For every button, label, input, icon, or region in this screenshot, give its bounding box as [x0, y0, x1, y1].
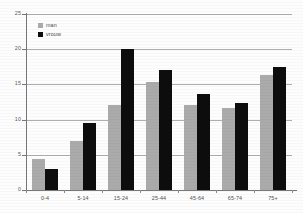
legend-item-man: man: [38, 21, 61, 30]
bar-chart: 0510152025 0-45-1415-2425-4445-6465-7475…: [0, 0, 303, 213]
bar-group-65-74: [222, 14, 248, 190]
x-tick-label-15-24: 15-24: [101, 196, 141, 201]
bar-vrouw-65-74: [235, 103, 248, 190]
x-tick-mark-0-4: [26, 190, 27, 193]
bar-group-25-44: [146, 14, 172, 190]
chart-legend: man vrouw: [38, 21, 61, 39]
x-tick-mark-65-74: [216, 190, 217, 193]
bar-vrouw-5-14: [83, 123, 96, 190]
x-tick-mark-5-14: [64, 190, 65, 193]
y-tick-label-20: 20: [1, 46, 21, 51]
x-axis-line: [26, 190, 297, 191]
x-tick-label-5-14: 5-14: [63, 196, 103, 201]
y-tick-label-10: 10: [1, 117, 21, 122]
y-tick-label-0: 0: [1, 187, 21, 192]
x-tick-mark-75+: [254, 190, 255, 193]
y-tick-label-25: 25: [1, 11, 21, 16]
bar-group-45-64: [184, 14, 210, 190]
x-tick-label-0-4: 0-4: [25, 196, 65, 201]
bar-vrouw-45-64: [197, 94, 210, 190]
bar-vrouw-75+: [273, 67, 286, 190]
x-tick-mark-45-64: [178, 190, 179, 193]
y-tick-label-15: 15: [1, 81, 21, 86]
legend-label-vrouw: vrouw: [46, 32, 61, 37]
x-tick-mark-25-44: [140, 190, 141, 193]
bars-layer: [26, 14, 292, 190]
x-tick-label-45-64: 45-64: [177, 196, 217, 201]
legend-item-vrouw: vrouw: [38, 30, 61, 39]
x-tick-mark-15-24: [102, 190, 103, 193]
bar-group-0-4: [32, 14, 58, 190]
bar-man-75+: [260, 75, 273, 190]
x-tick-label-25-44: 25-44: [139, 196, 179, 201]
bar-vrouw-15-24: [121, 49, 134, 191]
bar-man-5-14: [70, 141, 83, 190]
bar-vrouw-25-44: [159, 70, 172, 190]
x-tick-label-75+: 75+: [253, 196, 293, 201]
bar-man-15-24: [108, 105, 121, 190]
bar-group-15-24: [108, 14, 134, 190]
bar-man-45-64: [184, 105, 197, 190]
x-tick-label-65-74: 65-74: [215, 196, 255, 201]
legend-swatch-vrouw-icon: [38, 32, 43, 37]
bar-group-75+: [260, 14, 286, 190]
bar-vrouw-0-4: [45, 169, 58, 190]
y-tick-label-5: 5: [1, 152, 21, 157]
bar-man-25-44: [146, 82, 159, 190]
legend-label-man: man: [46, 23, 57, 28]
legend-swatch-man-icon: [38, 23, 43, 28]
bar-group-5-14: [70, 14, 96, 190]
bar-man-65-74: [222, 108, 235, 190]
x-tick-mark-end: [292, 190, 293, 193]
bar-man-0-4: [32, 159, 45, 190]
